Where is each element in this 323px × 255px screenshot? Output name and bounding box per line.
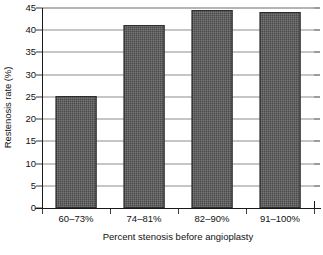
x-axis-title: Percent stenosis before angioplasty — [42, 231, 314, 242]
y-axis-title-text: Restenosis rate (%) — [3, 67, 14, 149]
y-axis-tick-right — [314, 163, 320, 164]
y-axis-tick-right — [314, 119, 320, 120]
y-axis-tick-right — [314, 52, 320, 53]
y-axis-line — [42, 8, 43, 208]
bar-slot — [42, 8, 110, 208]
bar — [124, 25, 165, 208]
y-axis-tick-label: 35 — [25, 48, 36, 58]
bar-chart-figure: Restenosis rate (%) 051015202530354045 6… — [0, 0, 323, 255]
x-axis-tick-label: 91–100% — [246, 212, 314, 228]
y-axis-tick-label: 15 — [25, 137, 36, 147]
y-axis-tick-right — [314, 74, 320, 75]
right-spine — [314, 201, 315, 209]
bar — [192, 10, 233, 208]
y-axis-tick-right — [314, 30, 320, 31]
x-axis-tick-labels: 60–73%74–81%82–90%91–100% — [42, 212, 314, 228]
bar-slot — [178, 8, 246, 208]
bar — [56, 96, 97, 208]
y-axis-tick-label: 10 — [25, 159, 36, 169]
plot-area — [42, 8, 314, 208]
x-axis-tick-label: 82–90% — [178, 212, 246, 228]
y-axis-tick-right — [314, 141, 320, 142]
y-axis-tick-right — [314, 96, 320, 97]
y-axis-tick-right — [314, 185, 320, 186]
y-axis-tick-label: 45 — [25, 3, 36, 13]
y-axis-tick-label: 30 — [25, 70, 36, 80]
y-axis-tick-label: 20 — [25, 114, 36, 124]
y-axis-tick-labels: 051015202530354045 — [14, 8, 36, 208]
y-axis-tick-label: 40 — [25, 25, 36, 35]
bar — [260, 12, 301, 208]
bar-slot — [246, 8, 314, 208]
bar-slot — [110, 8, 178, 208]
x-axis-tick-label: 74–81% — [110, 212, 178, 228]
bar-group — [42, 8, 314, 208]
x-axis-line — [35, 208, 321, 209]
y-axis-tick-label: 25 — [25, 92, 36, 102]
x-axis-tick-label: 60–73% — [42, 212, 110, 228]
y-axis-tick-right — [314, 8, 320, 9]
